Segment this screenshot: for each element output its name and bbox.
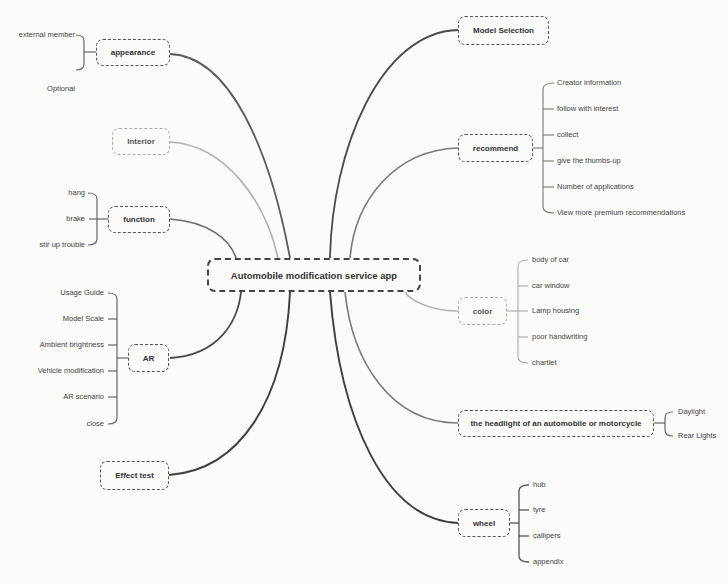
- node-model-selection[interactable]: Model Selection: [458, 16, 549, 45]
- leaf-number-of-applications[interactable]: Number of applications: [557, 182, 634, 192]
- model-selection-label: Model Selection: [473, 26, 534, 35]
- leaf-ambient-brightness[interactable]: Ambient brightness: [40, 340, 104, 350]
- bracket-recommend: [533, 83, 554, 213]
- bracket-color: [507, 260, 528, 363]
- node-function[interactable]: function: [108, 206, 170, 233]
- recommend-label: recommend: [473, 144, 518, 153]
- leaf-collect[interactable]: collect: [557, 130, 578, 140]
- leaf-close[interactable]: close: [86, 419, 104, 429]
- node-appearance[interactable]: appearance: [96, 39, 170, 66]
- ar-label: AR: [143, 354, 155, 363]
- bracket-headlight: [654, 412, 673, 436]
- leaf-chartlet[interactable]: chartlet: [532, 358, 557, 368]
- leaf-view-more-premium-recommendations[interactable]: View more premium recommendations: [557, 208, 685, 218]
- leaf-usage-guide[interactable]: Usage Guide: [60, 288, 104, 298]
- leaf-tyre[interactable]: tyre: [533, 505, 546, 515]
- appearance-label: appearance: [111, 48, 155, 57]
- node-recommend[interactable]: recommend: [458, 134, 533, 162]
- root-node[interactable]: Automobile modification service app: [207, 258, 421, 292]
- link-function: [170, 219, 236, 258]
- link-headlight: [345, 292, 458, 423]
- node-effect-test[interactable]: Effect test: [100, 461, 169, 490]
- effect-test-label: Effect test: [115, 471, 154, 480]
- function-label: function: [123, 215, 155, 224]
- leaf-follow-with-interest[interactable]: follow with interest: [557, 104, 618, 114]
- link-interior: [170, 142, 278, 258]
- leaf-external-member[interactable]: external member: [19, 30, 75, 40]
- leaf-optional[interactable]: Optional: [47, 84, 75, 94]
- leaf-callipers[interactable]: callipers: [533, 531, 561, 541]
- node-color[interactable]: color: [458, 297, 507, 325]
- node-ar[interactable]: AR: [128, 344, 169, 372]
- leaf-daylight[interactable]: Daylight: [678, 407, 705, 417]
- leaf-car-window[interactable]: car window: [532, 281, 570, 291]
- leaf-vehicle-modification[interactable]: Vehicle modification: [38, 366, 104, 376]
- wheel-label: wheel: [473, 519, 495, 528]
- link-appearance: [170, 54, 290, 258]
- leaf-model-scale[interactable]: Model Scale: [63, 314, 104, 324]
- bracket-wheel: [510, 485, 529, 562]
- node-interior[interactable]: Interior: [112, 128, 170, 155]
- mind-map-canvas: Automobile modification service app appe…: [0, 0, 728, 585]
- leaf-lamp-housing[interactable]: Lamp housing: [532, 306, 579, 316]
- node-headlight[interactable]: the headlight of an automobile or motorc…: [458, 410, 654, 437]
- link-color: [405, 292, 458, 311]
- root-label: Automobile modification service app: [231, 270, 397, 281]
- leaf-stir-up-trouble[interactable]: stir up trouble: [40, 240, 85, 250]
- leaf-ar-scenario[interactable]: AR scenario: [63, 392, 104, 402]
- leaf-appendix[interactable]: appendix: [533, 557, 563, 567]
- interior-label: Interior: [127, 137, 155, 146]
- leaf-hang[interactable]: hang: [68, 188, 85, 198]
- leaf-hub[interactable]: hub: [533, 480, 546, 490]
- leaf-brake[interactable]: brake: [66, 214, 85, 224]
- link-model-selection: [330, 30, 458, 258]
- leaf-give-the-thumbs-up[interactable]: give the thumbs-up: [557, 156, 621, 166]
- link-recommend: [350, 148, 458, 258]
- node-wheel[interactable]: wheel: [458, 509, 510, 537]
- bracket-ar: [108, 293, 128, 424]
- bracket-function: [88, 193, 108, 245]
- leaf-poor-handwriting[interactable]: poor handwriting: [532, 332, 587, 342]
- leaf-creator-information[interactable]: Creator information: [557, 78, 621, 88]
- leaf-body-of-car[interactable]: body of car: [532, 255, 569, 265]
- bracket-appearance: [76, 35, 96, 70]
- link-wheel: [330, 292, 458, 523]
- leaf-rear-lights[interactable]: Rear Lights: [678, 431, 716, 441]
- color-label: color: [473, 307, 493, 316]
- link-effect-test: [169, 292, 290, 475]
- link-ar: [170, 292, 241, 358]
- headlight-label: the headlight of an automobile or motorc…: [470, 419, 641, 428]
